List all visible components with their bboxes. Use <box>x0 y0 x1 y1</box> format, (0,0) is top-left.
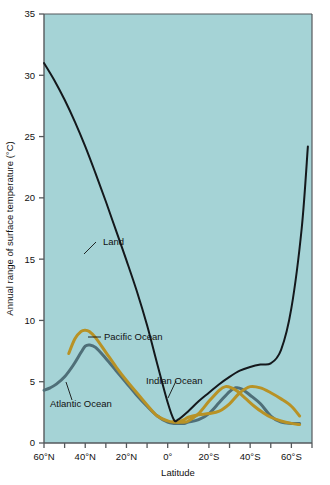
series-label-pacific-ocean: Pacific Ocean <box>104 331 163 342</box>
y-tick-label: 30 <box>24 70 35 81</box>
x-tick-label: 60°S <box>281 451 302 462</box>
x-tick-label: 20°N <box>116 451 137 462</box>
y-tick-label: 20 <box>24 192 35 203</box>
series-label-atlantic-ocean: Atlantic Ocean <box>50 398 112 409</box>
y-axis-title: Annual range of surface temperature (°C) <box>4 141 15 315</box>
chart-figure: 05101520253035 60°N40°N20°N0°20°S40°S60°… <box>0 0 330 485</box>
x-tick-label: 20°S <box>199 451 220 462</box>
x-axis-title: Latitude <box>161 467 195 478</box>
y-tick-label: 15 <box>24 254 35 265</box>
y-tick-label: 25 <box>24 131 35 142</box>
annual-temperature-range-chart: 05101520253035 60°N40°N20°N0°20°S40°S60°… <box>0 0 330 485</box>
y-tick-label: 5 <box>30 376 35 387</box>
x-tick-label: 40°N <box>75 451 96 462</box>
series-label-indian-ocean: Indian Ocean <box>146 375 203 386</box>
x-tick-label: 40°S <box>240 451 261 462</box>
series-label-land: Land <box>103 236 124 247</box>
y-tick-label: 10 <box>24 315 35 326</box>
x-tick-label: 0° <box>163 451 172 462</box>
x-tick-label: 60°N <box>33 451 54 462</box>
y-tick-label: 0 <box>30 437 35 448</box>
y-tick-label: 35 <box>24 8 35 19</box>
